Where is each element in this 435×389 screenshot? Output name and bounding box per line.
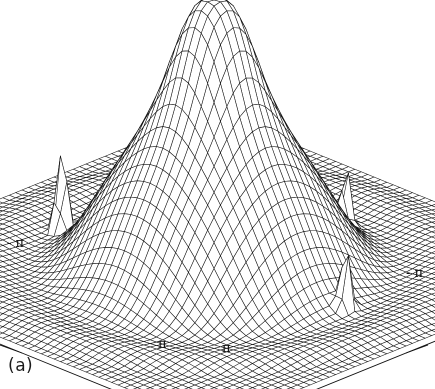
axis-tick-label-front-right: π: [222, 341, 231, 354]
figure-panel: - π - π π π (a): [0, 0, 435, 389]
axis-tick-label-front-left: π: [158, 337, 167, 350]
axis-tick-label-left: - π: [7, 236, 24, 249]
surface-mesh-plot: [0, 0, 435, 389]
axis-tick-label-right: - π: [406, 266, 423, 279]
figure-caption: (a): [8, 355, 33, 375]
